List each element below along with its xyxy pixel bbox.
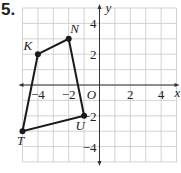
y-axis-arrow-down <box>98 161 102 166</box>
vertex-N-label: N <box>69 21 80 36</box>
y-tick-label: 4 <box>90 16 97 31</box>
x-tick-label: −4 <box>31 87 45 102</box>
axes <box>19 4 180 166</box>
x-tick-label: 4 <box>158 87 165 102</box>
y-axis-arrow-up <box>98 4 102 9</box>
vertex-K-label: K <box>23 38 34 53</box>
vertex-U-label: U <box>75 118 86 133</box>
x-axis-label: x <box>174 85 181 100</box>
vertex-T-label: T <box>17 133 25 148</box>
y-tick-label: −4 <box>83 140 97 155</box>
y-tick-label: 2 <box>90 47 97 62</box>
coordinate-plane: −4−22442−2−4OxyKNUT <box>0 0 181 173</box>
x-tick-label: −2 <box>62 87 76 102</box>
origin-label: O <box>87 87 97 102</box>
x-tick-label: 2 <box>127 87 134 102</box>
y-axis-label: y <box>104 0 112 15</box>
vertex-U-point <box>81 113 87 119</box>
x-axis-arrow-left <box>19 83 24 87</box>
vertex-T-point <box>20 128 26 134</box>
vertex-K-point <box>35 51 41 57</box>
vertex-N-point <box>66 36 72 42</box>
